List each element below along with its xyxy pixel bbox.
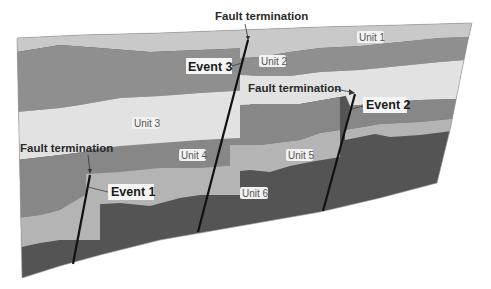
event1-label: Event 1 <box>111 185 156 199</box>
fault-termination-label-top: Fault termination <box>215 10 308 22</box>
unit2-label: Unit 2 <box>261 56 288 67</box>
fault-termination-label-left: Fault termination <box>20 142 113 154</box>
event2-label: Event 2 <box>366 98 411 112</box>
cross-section-diagram: Fault termination Fault termination Faul… <box>0 0 491 289</box>
event3-label: Event 3 <box>188 60 233 74</box>
fault-termination-label-right: Fault termination <box>248 82 341 94</box>
unit1-label: Unit 1 <box>359 32 386 43</box>
unit4-label: Unit 4 <box>181 150 208 161</box>
unit3-label: Unit 3 <box>134 118 161 129</box>
unit5-label: Unit 5 <box>288 150 315 161</box>
unit6-label: Unit 6 <box>242 188 269 199</box>
unit1-left <box>0 0 250 53</box>
